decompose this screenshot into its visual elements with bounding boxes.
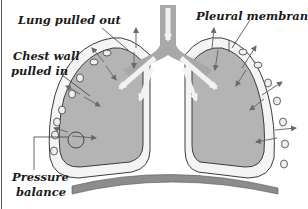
- label-pleural-membranes: Pleural membranes: [195, 9, 308, 23]
- label-chest-wall-line1: Chest wall: [13, 49, 80, 63]
- lung-diagram: Lung pulled out Pleural membranes Chest …: [0, 0, 308, 209]
- label-chest-wall-line2: pulled in: [11, 64, 68, 78]
- label-pressure-line1: Pressure: [11, 170, 69, 184]
- label-lung-pulled-out: Lung pulled out: [17, 13, 121, 27]
- label-pressure-line2: balance: [16, 185, 66, 199]
